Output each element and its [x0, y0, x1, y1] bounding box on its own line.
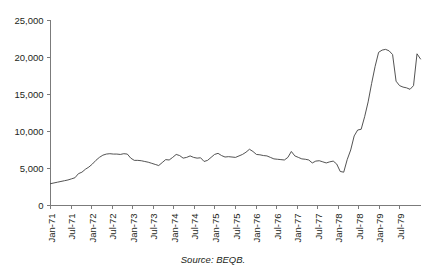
- x-tick-label: Jan-75: [210, 214, 221, 243]
- y-axis-ticks: [47, 21, 51, 206]
- x-tick-label: Jul-76: [272, 214, 283, 240]
- y-tick-label: 20,000: [14, 52, 43, 63]
- y-axis: 05,00010,00015,00020,00025,000: [14, 15, 50, 211]
- x-axis: Jan-71Jul-71Jan-72Jul-72Jan-73Jul-73Jan-…: [46, 206, 421, 243]
- chart-figure: 05,00010,00015,00020,00025,000 Jan-71Jul…: [0, 0, 440, 280]
- y-tick-label: 15,000: [14, 89, 43, 100]
- x-tick-label: Jul-79: [395, 214, 406, 240]
- x-tick-label: Jan-74: [169, 214, 180, 243]
- x-tick-label: Jan-79: [374, 214, 385, 243]
- x-tick-label: Jul-71: [66, 214, 77, 240]
- x-tick-label: Jan-76: [251, 214, 262, 243]
- x-tick-label: Jan-72: [87, 214, 98, 243]
- x-tick-label: Jul-72: [107, 214, 118, 240]
- x-tick-label: Jan-73: [128, 214, 139, 243]
- x-axis-tick-labels: Jan-71Jul-71Jan-72Jul-72Jan-73Jul-73Jan-…: [46, 214, 406, 243]
- source-note: Source: BEQB.: [0, 254, 426, 265]
- x-tick-label: Jul-75: [231, 214, 242, 240]
- x-tick-label: Jan-78: [333, 214, 344, 243]
- x-tick-label: Jan-71: [46, 214, 57, 243]
- y-tick-label: 25,000: [14, 15, 43, 26]
- y-axis-tick-labels: 05,00010,00015,00020,00025,000: [14, 15, 43, 211]
- series-line-1: [51, 49, 421, 183]
- x-axis-ticks: [51, 206, 400, 210]
- x-tick-label: Jul-77: [313, 214, 324, 240]
- x-tick-label: Jul-73: [148, 214, 159, 240]
- x-tick-label: Jan-77: [292, 214, 303, 243]
- x-tick-label: Jul-74: [189, 214, 200, 240]
- y-tick-label: 0: [38, 200, 43, 211]
- plot-area: [51, 49, 421, 183]
- y-tick-label: 5,000: [20, 163, 44, 174]
- y-tick-label: 10,000: [14, 126, 43, 137]
- x-tick-label: Jul-78: [354, 214, 365, 240]
- line-chart: 05,00010,00015,00020,00025,000 Jan-71Jul…: [0, 0, 440, 280]
